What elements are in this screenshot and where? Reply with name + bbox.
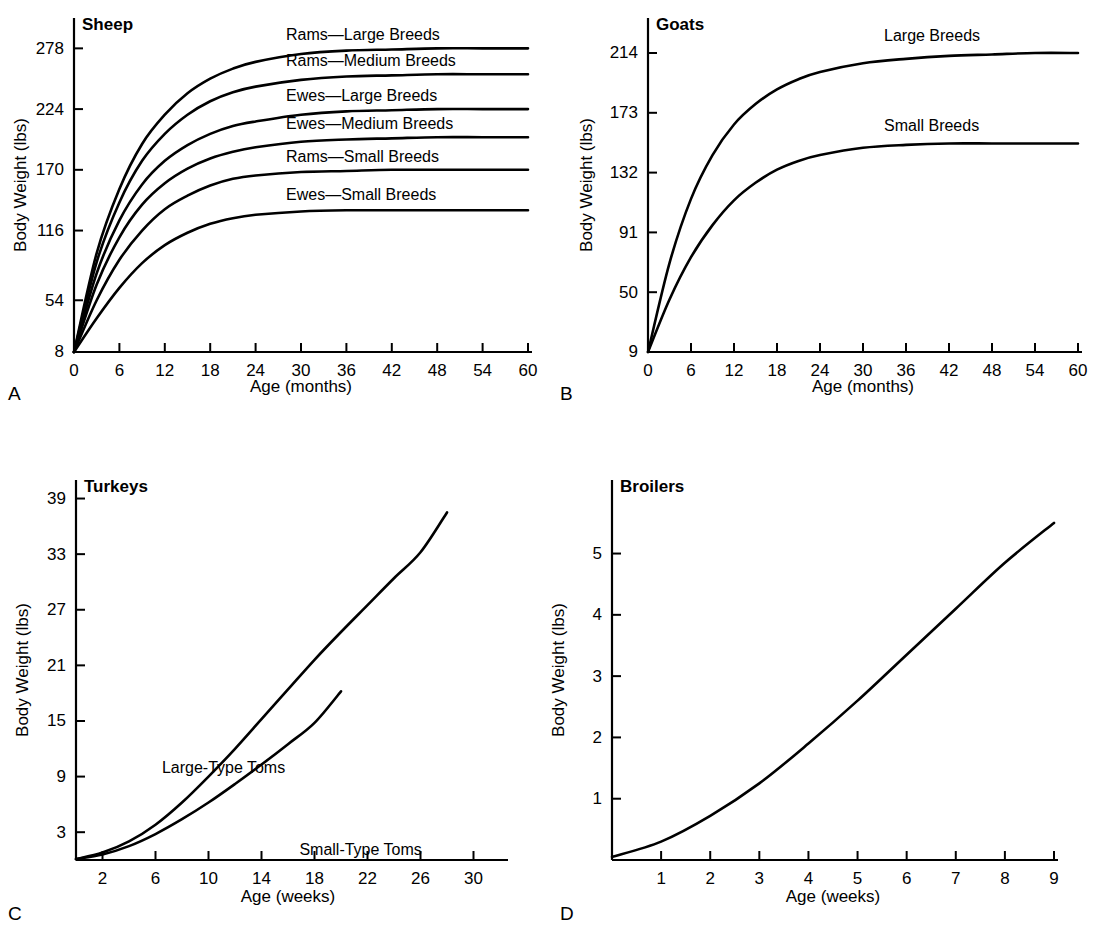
- series-label: Rams—Small Breeds: [286, 148, 439, 165]
- x-tick-label: 3: [755, 869, 764, 888]
- goats-chart-svg: 9509113217321406121824303642485460Large …: [550, 0, 1100, 420]
- panel-title: Turkeys: [84, 477, 148, 496]
- y-tick-label: 173: [610, 103, 638, 122]
- panel-letter: C: [8, 903, 22, 924]
- x-tick-label: 0: [643, 361, 652, 380]
- y-axis-title: Body Weight (lbs): [11, 118, 30, 252]
- x-tick-label: 18: [768, 361, 787, 380]
- y-tick-label: 39: [47, 489, 66, 508]
- y-tick-label: 5: [593, 544, 602, 563]
- x-tick-label: 1: [656, 869, 665, 888]
- x-axis-title: Age (weeks): [786, 887, 880, 906]
- x-tick-label: 22: [358, 869, 377, 888]
- y-axis-title: Body Weight (lbs): [577, 118, 596, 252]
- y-tick-label: 116: [37, 221, 64, 240]
- series-label: Rams—Large Breeds: [286, 26, 440, 43]
- x-tick-label: 30: [464, 869, 483, 888]
- x-tick-label: 26: [411, 869, 430, 888]
- x-tick-label: 4: [804, 869, 813, 888]
- y-tick-label: 224: [36, 100, 64, 119]
- x-tick-label: 2: [98, 869, 107, 888]
- panel-sheep: 85411617022427806121824303642485460Rams—…: [0, 0, 550, 420]
- y-tick-label: 9: [57, 767, 66, 786]
- panel-letter: B: [560, 383, 573, 404]
- x-tick-label: 48: [428, 361, 447, 380]
- x-tick-label: 7: [951, 869, 960, 888]
- x-tick-label: 54: [1026, 361, 1045, 380]
- series-curve: [76, 512, 447, 859]
- series-label: Small Breeds: [884, 117, 979, 134]
- x-axis-title: Age (months): [812, 377, 914, 396]
- x-tick-label: 10: [199, 869, 218, 888]
- series-curve: [648, 53, 1078, 352]
- panel-title: Sheep: [82, 15, 133, 34]
- x-tick-label: 18: [201, 361, 220, 380]
- x-tick-label: 6: [115, 361, 124, 380]
- y-tick-label: 214: [610, 43, 638, 62]
- sheep-chart-svg: 85411617022427806121824303642485460Rams—…: [0, 0, 550, 420]
- x-tick-label: 48: [983, 361, 1002, 380]
- y-tick-label: 132: [610, 163, 638, 182]
- y-tick-label: 91: [619, 223, 638, 242]
- y-tick-label: 4: [593, 605, 602, 624]
- panel-title: Broilers: [620, 477, 684, 496]
- x-tick-label: 60: [1069, 361, 1088, 380]
- panel-goats: 9509113217321406121824303642485460Large …: [550, 0, 1100, 420]
- series-label: Ewes—Medium Breeds: [286, 115, 453, 132]
- y-tick-label: 8: [55, 342, 64, 361]
- y-tick-label: 21: [47, 656, 66, 675]
- x-tick-label: 6: [686, 361, 695, 380]
- growth-curves-figure: 85411617022427806121824303642485460Rams—…: [0, 0, 1100, 944]
- y-tick-label: 54: [45, 291, 64, 310]
- x-axis-title: Age (months): [250, 377, 352, 396]
- y-tick-label: 3: [57, 823, 66, 842]
- x-tick-label: 9: [1049, 869, 1058, 888]
- series-label: Small-Type Toms: [299, 841, 421, 858]
- turkeys-chart-svg: 39152127333926101418222630Large-Type Tom…: [0, 420, 550, 944]
- series-label: Large Breeds: [884, 27, 980, 44]
- x-tick-label: 42: [940, 361, 959, 380]
- x-tick-label: 6: [902, 869, 911, 888]
- panel-letter: D: [560, 903, 574, 924]
- series-curve: [612, 523, 1054, 857]
- x-tick-label: 0: [69, 361, 78, 380]
- series-label: Ewes—Large Breeds: [286, 87, 437, 104]
- y-tick-label: 15: [47, 711, 66, 730]
- x-tick-label: 42: [382, 361, 401, 380]
- x-tick-label: 60: [519, 361, 538, 380]
- panel-broilers: 12345123456789BroilersAge (weeks)Body We…: [550, 420, 1100, 944]
- y-tick-label: 33: [47, 545, 66, 564]
- y-axis-title: Body Weight (lbs): [13, 603, 32, 737]
- panel-turkeys: 39152127333926101418222630Large-Type Tom…: [0, 420, 550, 944]
- y-tick-label: 50: [619, 283, 638, 302]
- x-tick-label: 2: [705, 869, 714, 888]
- x-axis-title: Age (weeks): [241, 887, 335, 906]
- panel-title: Goats: [656, 15, 704, 34]
- y-tick-label: 9: [629, 342, 638, 361]
- y-tick-label: 1: [593, 789, 602, 808]
- series-label: Ewes—Small Breeds: [286, 186, 436, 203]
- x-tick-label: 5: [853, 869, 862, 888]
- y-tick-label: 27: [47, 600, 66, 619]
- x-tick-label: 6: [151, 869, 160, 888]
- panel-letter: A: [8, 383, 21, 404]
- x-tick-label: 8: [1000, 869, 1009, 888]
- x-tick-label: 54: [473, 361, 492, 380]
- x-tick-label: 18: [305, 869, 324, 888]
- y-tick-label: 170: [36, 160, 64, 179]
- y-tick-label: 3: [593, 667, 602, 686]
- x-tick-label: 12: [155, 361, 174, 380]
- y-tick-label: 2: [593, 728, 602, 747]
- y-tick-label: 278: [36, 39, 64, 58]
- y-axis-title: Body Weight (lbs): [550, 603, 568, 737]
- series-curve: [648, 143, 1078, 352]
- broilers-chart-svg: 12345123456789BroilersAge (weeks)Body We…: [550, 420, 1100, 944]
- x-tick-label: 12: [725, 361, 744, 380]
- x-tick-label: 14: [252, 869, 271, 888]
- series-label: Rams—Medium Breeds: [286, 52, 456, 69]
